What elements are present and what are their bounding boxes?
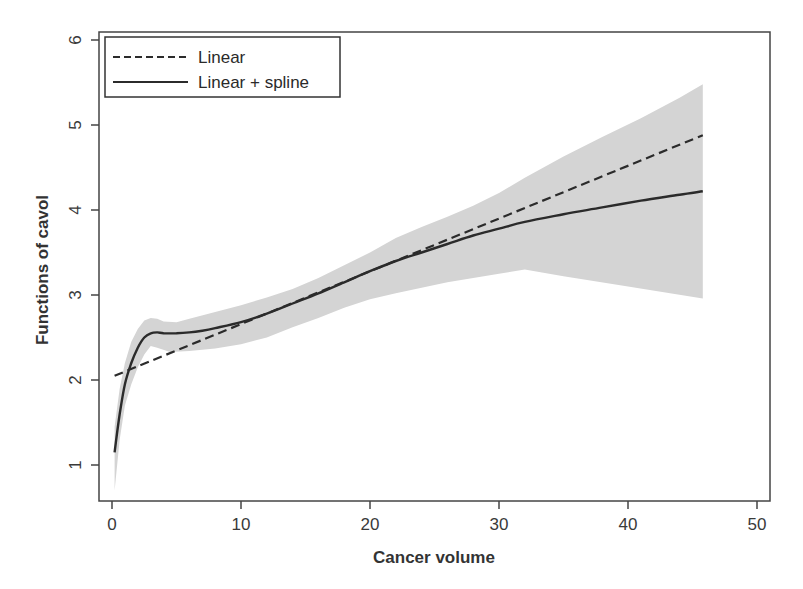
chart: 01020304050 123456 Cancer volume Functio… <box>0 0 803 589</box>
x-tick-label: 40 <box>619 515 638 534</box>
x-axis-title: Cancer volume <box>373 548 495 567</box>
legend-linear-label: Linear <box>198 48 246 67</box>
x-tick-label: 30 <box>490 515 509 534</box>
x-tick-label: 10 <box>232 515 251 534</box>
y-axis-title: Functions of cavol <box>33 195 52 345</box>
x-tick-label: 20 <box>361 515 380 534</box>
y-tick-label: 4 <box>66 205 85 214</box>
y-tick-label: 1 <box>66 460 85 469</box>
x-tick-label: 50 <box>748 515 767 534</box>
y-tick-label: 5 <box>66 120 85 129</box>
legend-spline-label: Linear + spline <box>198 73 309 92</box>
confidence-band <box>115 84 703 490</box>
legend: Linear Linear + spline <box>105 37 340 97</box>
x-tick-label: 0 <box>107 515 116 534</box>
y-tick-label: 2 <box>66 375 85 384</box>
y-tick-label: 6 <box>66 35 85 44</box>
x-axis: 01020304050 <box>107 501 766 534</box>
y-tick-label: 3 <box>66 290 85 299</box>
y-axis: 123456 <box>66 35 99 469</box>
